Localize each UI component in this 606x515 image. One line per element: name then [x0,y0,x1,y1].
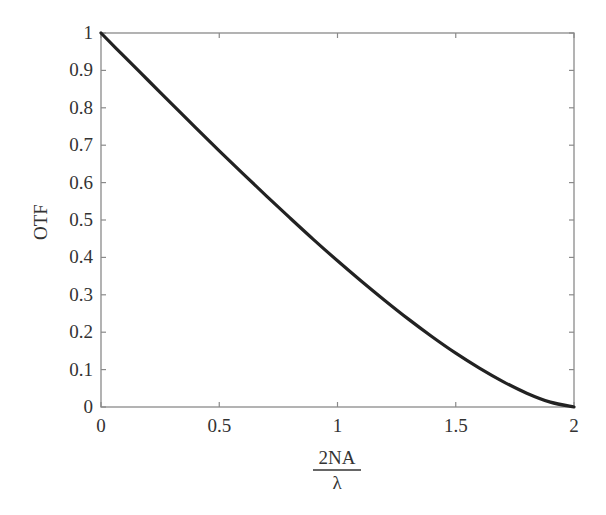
y-tick-label: 0.2 [69,321,93,342]
y-tick-label: 0.1 [69,359,93,380]
y-tick-label: 0.9 [69,59,93,80]
x-tick-label: 2 [569,415,579,436]
x-tick-label: 1 [333,415,343,436]
y-tick-label: 0.7 [69,134,93,155]
plot-frame [101,33,574,407]
x-axis-label-denominator: λ [332,472,342,493]
y-tick-label: 0 [84,396,94,417]
y-tick-label: 0.8 [69,97,93,118]
plot-border [101,33,574,407]
y-tick-label: 0.3 [69,284,93,305]
y-tick-labels: 00.10.20.30.40.50.60.70.80.91 [69,22,93,417]
x-tick-label: 0.5 [207,415,231,436]
axis-ticks [101,33,574,407]
otf-chart: 00.511.52 00.10.20.30.40.50.60.70.80.91 … [0,0,606,515]
y-tick-label: 0.6 [69,172,93,193]
x-tick-label: 1.5 [444,415,468,436]
x-tick-labels: 00.511.52 [96,415,579,436]
y-tick-label: 0.4 [69,246,93,267]
y-tick-label: 0.5 [69,209,93,230]
x-tick-label: 0 [96,415,106,436]
x-axis-label-numerator: 2NA [319,447,356,468]
otf-curve [101,33,574,407]
y-tick-label: 1 [84,22,94,43]
y-axis-label: OTF [30,204,51,240]
